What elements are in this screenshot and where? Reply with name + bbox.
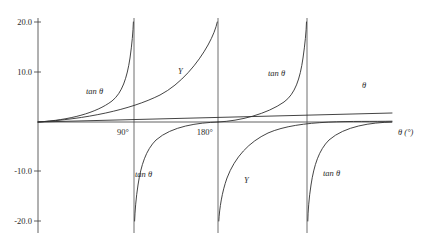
curve-label-tan-1: tan θ bbox=[86, 86, 103, 96]
curve-tan-branch-1 bbox=[38, 22, 133, 122]
curve-label-Y-2: Y bbox=[244, 175, 250, 185]
trig-plot-svg: 20.0 10.0 -10.0 -20.0 90° 180° θ (°) tan… bbox=[0, 0, 434, 241]
curve-label-tan-2: tan θ bbox=[135, 169, 152, 179]
y-tick-label-10: 10.0 bbox=[17, 67, 32, 77]
x-tick-label-180: 180° bbox=[197, 127, 213, 137]
curve-label-theta: θ bbox=[362, 80, 366, 90]
chart-container: 20.0 10.0 -10.0 -20.0 90° 180° θ (°) tan… bbox=[0, 0, 434, 241]
curve-label-Y-1: Y bbox=[178, 66, 184, 76]
x-tick-label-90: 90° bbox=[117, 127, 129, 137]
curve-label-tan-4: tan θ bbox=[323, 168, 340, 178]
curve-tan-branch-3 bbox=[218, 22, 307, 122]
curve-tan-branch-4 bbox=[308, 122, 392, 221]
curve-Y-branch-2 bbox=[219, 121, 392, 221]
x-axis-title: θ (°) bbox=[398, 127, 414, 137]
y-tick-label-20: 20.0 bbox=[17, 17, 32, 27]
y-tick-label-neg10: -10.0 bbox=[14, 166, 32, 176]
curve-label-tan-3: tan θ bbox=[268, 68, 285, 78]
curve-theta-line bbox=[38, 113, 392, 122]
y-tick-label-neg20: -20.0 bbox=[14, 216, 32, 226]
